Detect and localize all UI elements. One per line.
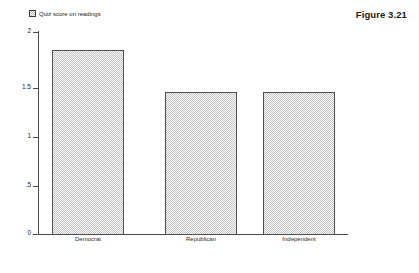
y-tick-label: 1 <box>27 133 31 140</box>
x-tick-label-independent: Independent <box>263 236 335 242</box>
y-tick-mark <box>33 88 38 89</box>
y-tick-label: 1.5 <box>22 84 31 91</box>
y-tick-label-container: .5 <box>0 182 31 190</box>
figure-container: Figure 3.21 Quiz score on readings 2 1.5… <box>0 0 419 273</box>
x-tick-label-democrat: Democrat <box>52 236 124 242</box>
bar-independent <box>263 92 335 235</box>
y-tick-label: .5 <box>26 182 31 189</box>
y-tick-label-container: 1 <box>0 133 31 141</box>
y-tick-label: 2 <box>27 28 31 35</box>
bar-democrat <box>52 50 124 235</box>
bar-republican <box>165 92 237 235</box>
x-tick-label-republican: Republican <box>165 236 237 242</box>
plot-area: 2 1.5 1 .5 0 Democrat Republican Indepen… <box>0 0 419 273</box>
y-tick-label-container: 0 <box>0 230 31 238</box>
y-tick-label-container: 1.5 <box>0 84 31 92</box>
y-axis-line <box>38 31 39 235</box>
y-tick-mark <box>33 234 38 235</box>
y-tick-mark <box>33 32 38 33</box>
y-tick-label-container: 2 <box>0 28 31 36</box>
y-tick-label: 0 <box>27 230 31 237</box>
y-tick-mark <box>33 186 38 187</box>
y-tick-mark <box>33 137 38 138</box>
